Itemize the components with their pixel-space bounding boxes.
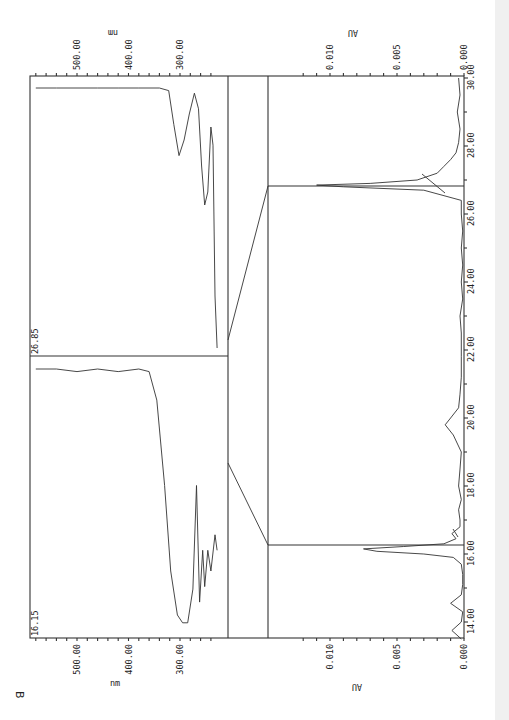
page-edge — [495, 0, 509, 720]
nm-tick-label: 300.00 — [175, 644, 185, 675]
nm-tick-label: 400.00 — [124, 644, 134, 675]
au-axis-bottom: 0.0000.0050.010 — [303, 638, 469, 670]
nm-axis-bottom: 500.00400.00300.00 — [36, 638, 211, 675]
plot-frame — [30, 76, 464, 638]
time-tick-label: 28.00 — [466, 132, 476, 158]
nm-unit-top: nm — [108, 28, 118, 38]
au-axis-top: 0.0000.0050.010 — [303, 44, 469, 76]
time-tick-label: 16.00 — [466, 540, 476, 566]
nm-axis-top: 500.00400.00300.00 — [36, 39, 211, 76]
time-tick-label: 24.00 — [466, 268, 476, 294]
au-tick-label: 0.010 — [325, 44, 335, 70]
spectrum-label-16-15: 16.15 — [30, 610, 40, 636]
time-tick-label: 26.00 — [466, 200, 476, 226]
time-tick-label: 18.00 — [466, 472, 476, 498]
au-tick-label: 0.000 — [459, 644, 469, 670]
time-tick-label: 14.00 — [466, 608, 476, 634]
nm-tick-label: 500.00 — [72, 39, 82, 70]
chromatogram-trace — [317, 78, 463, 639]
nm-tick-label: 300.00 — [175, 39, 185, 70]
peak-connectors — [228, 174, 464, 545]
au-tick-label: 0.000 — [459, 44, 469, 70]
au-unit-top: AU — [348, 28, 358, 38]
time-tick-label: 20.00 — [466, 404, 476, 430]
au-tick-label: 0.005 — [392, 644, 402, 670]
nm-unit-bottom: nm — [110, 678, 120, 688]
spectrum-trace-26-85 — [36, 88, 217, 348]
au-unit-bottom: AU — [352, 682, 362, 692]
panel-label: B — [13, 691, 26, 699]
spectrum-trace-16-15 — [36, 369, 217, 623]
chromatogram-figure: B 14.0016.0018.0020.0022.0024.0026.0028.… — [0, 0, 509, 720]
nm-tick-label: 500.00 — [72, 644, 82, 675]
nm-tick-label: 400.00 — [124, 39, 134, 70]
time-tick-label: 22.00 — [466, 336, 476, 362]
au-tick-label: 0.010 — [325, 644, 335, 670]
spectrum-label-26-85: 26.85 — [30, 328, 40, 354]
au-tick-label: 0.005 — [392, 44, 402, 70]
time-axis: 14.0016.0018.0020.0022.0024.0026.0028.00… — [464, 64, 476, 634]
